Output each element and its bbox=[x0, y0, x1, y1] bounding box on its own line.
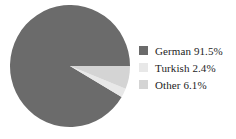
legend-item-other[interactable]: Other 6.1% bbox=[139, 76, 235, 93]
legend-swatch-other bbox=[139, 80, 148, 89]
legend-label-other: Other 6.1% bbox=[155, 79, 207, 91]
pie-slice-german[interactable] bbox=[10, 5, 130, 127]
legend-item-german[interactable]: German 91.5% bbox=[139, 42, 235, 59]
pie-slices bbox=[10, 5, 130, 127]
pie-chart-svg bbox=[10, 5, 132, 129]
pie-chart-plot-area bbox=[10, 5, 132, 129]
legend-item-turkish[interactable]: Turkish 2.4% bbox=[139, 59, 235, 76]
legend-label-german: German 91.5% bbox=[155, 45, 223, 57]
pie-chart-figure: German 91.5% Turkish 2.4% Other 6.1% bbox=[0, 0, 236, 139]
legend-label-turkish: Turkish 2.4% bbox=[155, 62, 216, 74]
legend-swatch-turkish bbox=[139, 63, 148, 72]
chart-legend: German 91.5% Turkish 2.4% Other 6.1% bbox=[139, 42, 235, 93]
legend-swatch-german bbox=[139, 46, 148, 55]
